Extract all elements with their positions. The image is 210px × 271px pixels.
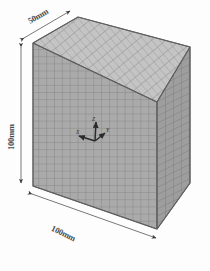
figure-canvas: X Z Y 50mm 100mm 100mm <box>0 0 210 271</box>
dimension-label-height: 100mm <box>6 124 16 150</box>
triad-label-x: X <box>75 129 80 135</box>
mesh-diagram-svg: X Z Y <box>0 0 210 271</box>
